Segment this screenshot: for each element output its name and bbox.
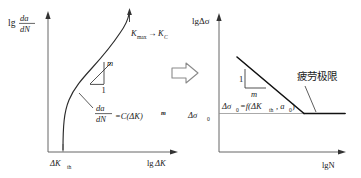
right-slope-run-label: m — [251, 89, 257, 99]
left-kmax-annotation: K max → K C — [130, 28, 168, 40]
left-y-axis-label-den: dN — [20, 24, 31, 34]
right-y-tick-label: Δσ 0 — [187, 110, 210, 122]
left-equation-exponent: m — [161, 109, 166, 116]
implies-arrow — [172, 63, 198, 83]
left-x-axis-label: lg ΔK — [147, 158, 167, 168]
right-fatigue-limit-callout: 疲劳极限 — [297, 70, 338, 82]
fatigue-diagram-figure: lg da dN K max → K C m 1 da dN =C(ΔK) m … — [0, 0, 361, 178]
right-y-tick-symbol: Δσ — [187, 110, 198, 120]
left-x-axis — [48, 149, 178, 154]
left-equation-numerator: da — [96, 103, 105, 113]
left-x-axis-label-dk: ΔK — [154, 158, 167, 168]
right-threshold-formula: Δσ 0 =f(ΔK th , a 0 ) — [221, 101, 295, 113]
left-kmax-subscript: max — [137, 34, 147, 40]
left-y-axis — [45, 11, 50, 152]
right-formula-lhs: Δσ — [221, 101, 232, 111]
right-x-axis — [219, 149, 346, 154]
left-equation-rhs: =C(ΔK) — [115, 111, 143, 121]
right-chart-group: lgΔσ 1 m Δσ 0 =f(ΔK th , a 0 ) Δσ 0 疲劳极限… — [187, 13, 346, 170]
right-formula-rhs-end: ) — [292, 101, 295, 111]
left-y-axis-label-num: da — [20, 13, 29, 23]
left-kmax-arrow: → — [148, 28, 157, 38]
right-slope-rise-label: 1 — [239, 74, 243, 84]
left-chart-group: lg da dN K max → K C m 1 da dN =C(ΔK) m … — [8, 8, 178, 170]
diagram-canvas: lg da dN K max → K C m 1 da dN =C(ΔK) m … — [0, 0, 361, 178]
left-paris-equation: da dN =C(ΔK) m — [95, 103, 166, 124]
right-formula-rhs: =f(ΔK — [240, 101, 263, 111]
right-x-axis-label: lgN — [322, 160, 335, 170]
left-x-tick-label: ΔK th — [49, 158, 72, 170]
right-formula-rhs-mid: , a — [276, 101, 285, 111]
right-y-axis-label: lgΔσ — [192, 16, 210, 26]
right-y-axis — [216, 13, 221, 152]
left-y-axis-label: lg da dN — [8, 13, 35, 34]
right-formula-rhs-sub: th — [269, 107, 274, 113]
left-x-tick-symbol: ΔK — [49, 158, 62, 168]
left-y-axis-label-lg: lg — [8, 18, 16, 28]
left-x-axis-label-lg: lg — [147, 158, 154, 168]
left-slope-run-label: 1 — [102, 85, 106, 95]
right-formula-lhs-sub: 0 — [236, 107, 239, 113]
right-y-tick-subscript: 0 — [207, 116, 210, 122]
left-sigmoid-curve — [63, 14, 129, 150]
left-equation-leader — [79, 93, 93, 108]
left-kc-subscript: C — [164, 34, 168, 40]
left-slope-rise-label: m — [107, 58, 113, 68]
right-callout-leader — [305, 86, 316, 112]
left-x-tick-subscript: th — [67, 164, 72, 170]
left-equation-denominator: dN — [96, 114, 107, 124]
